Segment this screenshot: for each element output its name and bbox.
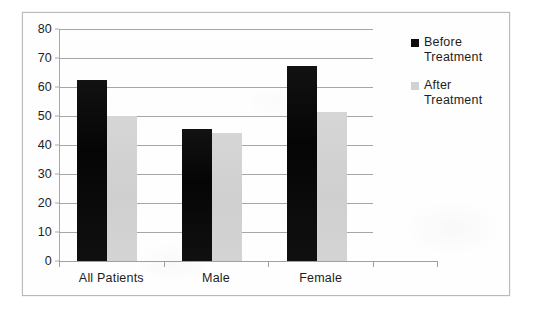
y-tick-50	[55, 116, 59, 117]
x-axis-label-all-patients: All Patients	[79, 271, 144, 285]
bar-male-before-treatment	[182, 129, 212, 261]
plot-area: 01020304050607080	[59, 29, 373, 261]
y-tick-60	[55, 87, 59, 88]
y-tick-70	[55, 58, 59, 59]
bar-male-after-treatment	[212, 133, 242, 261]
y-axis-label-20: 20	[38, 196, 52, 210]
legend-entry-before-treatment: Before Treatment	[411, 35, 506, 65]
gridline-70	[59, 58, 373, 59]
legend-label-before-line1: Before	[424, 35, 462, 49]
legend-label-before-line2: Treatment	[424, 50, 482, 64]
x-axis-separator-edge-1	[373, 261, 374, 267]
y-tick-30	[55, 174, 59, 175]
y-axis-label-30: 30	[38, 167, 52, 181]
x-axis-separator-1	[164, 261, 165, 267]
y-tick-40	[55, 145, 59, 146]
y-axis-label-70: 70	[38, 51, 52, 65]
chart-frame: 01020304050607080 All PatientsMaleFemale…	[22, 12, 510, 296]
legend-label-after-line2: Treatment	[424, 93, 482, 107]
y-tick-80	[55, 29, 59, 30]
x-axis-line	[59, 261, 437, 262]
y-axis-label-0: 0	[45, 254, 52, 268]
y-tick-10	[55, 232, 59, 233]
bar-female-after-treatment	[317, 112, 347, 261]
gridline-80	[59, 29, 373, 30]
y-tick-20	[55, 203, 59, 204]
y-axis-label-80: 80	[38, 22, 52, 36]
x-axis-separator-edge-2	[437, 261, 438, 267]
legend-label-after-line1: After	[424, 78, 451, 92]
before-treatment-swatch	[411, 39, 419, 47]
legend-label-after-treatment: After Treatment	[424, 78, 482, 108]
legend-entry-after-treatment: After Treatment	[411, 78, 506, 108]
bar-female-before-treatment	[287, 66, 317, 261]
y-axis-label-10: 10	[38, 225, 52, 239]
bar-all-patients-before-treatment	[77, 80, 107, 261]
x-axis-label-male: Male	[202, 271, 230, 285]
y-axis-label-50: 50	[38, 109, 52, 123]
legend-label-before-treatment: Before Treatment	[424, 35, 482, 65]
y-axis-label-60: 60	[38, 80, 52, 94]
x-axis-label-female: Female	[299, 271, 342, 285]
x-axis-separator-2	[268, 261, 269, 267]
after-treatment-swatch	[411, 82, 419, 90]
x-axis-separator-edge-0	[59, 261, 60, 267]
chart-legend: Before Treatment After Treatment	[411, 35, 506, 121]
bar-all-patients-after-treatment	[107, 116, 137, 261]
y-axis-label-40: 40	[38, 138, 52, 152]
